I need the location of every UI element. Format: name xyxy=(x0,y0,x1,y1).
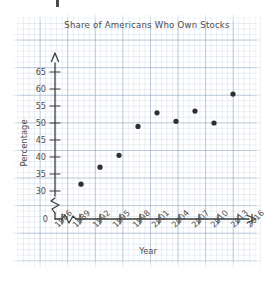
data-point-series xyxy=(78,92,235,187)
y-tick-label: 30 xyxy=(36,186,46,196)
x-tick-label: 1986 xyxy=(52,208,74,230)
y-tick-label: 35 xyxy=(36,169,46,179)
data-point xyxy=(230,92,235,97)
x-axis-title: Year xyxy=(138,246,157,256)
data-point xyxy=(97,165,102,170)
data-point xyxy=(211,120,216,125)
x-tick-label: 2016 xyxy=(244,208,266,230)
y-tick-label: 60 xyxy=(36,84,46,94)
y-tick-label: 65 xyxy=(36,67,46,77)
y-tick-label: 45 xyxy=(36,135,46,145)
data-point xyxy=(154,110,159,115)
data-point xyxy=(135,124,140,129)
y-tick-label-zero: 0 xyxy=(43,214,48,224)
y-tick-label: 55 xyxy=(36,101,46,111)
data-point xyxy=(78,182,83,187)
y-axis xyxy=(51,53,59,219)
data-point xyxy=(173,119,178,124)
data-point xyxy=(116,153,121,158)
y-tick-label: 40 xyxy=(36,152,46,162)
chart-title: Share of Americans Who Own Stocks xyxy=(64,20,230,30)
y-axis-tick-labels: 65 60 55 50 45 40 35 30 0 xyxy=(36,67,48,224)
y-axis-title: Percentage xyxy=(19,119,29,166)
y-tick-label: 50 xyxy=(36,118,46,128)
chart-screenshot: Share of Americans Who Own Stocks 65 60 … xyxy=(0,0,273,283)
data-point xyxy=(192,109,197,114)
scatter-plot: Share of Americans Who Own Stocks 65 60 … xyxy=(0,0,273,283)
x-axis-tick-labels: 1986 1989 1992 1995 1998 2001 2004 2007 … xyxy=(52,208,266,230)
